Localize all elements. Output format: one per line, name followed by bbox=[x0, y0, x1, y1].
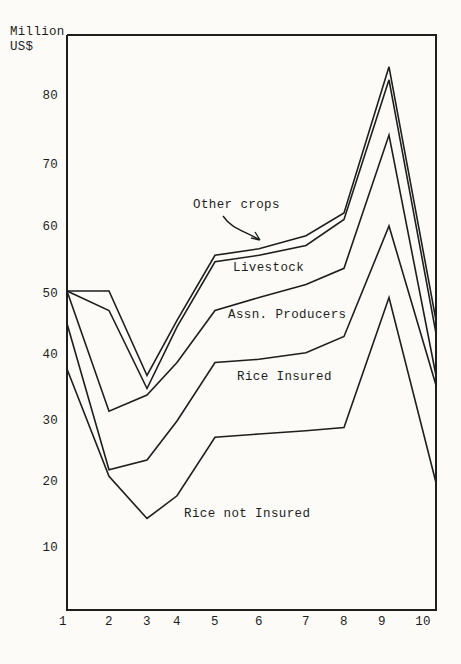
x-tick-label-9: 9 bbox=[370, 614, 394, 630]
y-tick-label-10: 10 bbox=[24, 540, 58, 556]
arrowhead-icon bbox=[223, 216, 260, 240]
x-tick-label-7: 7 bbox=[294, 614, 318, 630]
y-axis-title: Million US$ bbox=[10, 25, 65, 55]
series-line-5 bbox=[67, 298, 436, 519]
y-tick-label-70: 70 bbox=[24, 157, 58, 173]
x-tick-label-8: 8 bbox=[332, 614, 356, 630]
x-tick-label-2: 2 bbox=[97, 614, 121, 630]
y-tick-label-50: 50 bbox=[24, 286, 58, 302]
y-tick-label-40: 40 bbox=[24, 347, 58, 363]
series-line-1 bbox=[67, 67, 436, 376]
band-label-rice-insured: Rice Insured bbox=[237, 370, 332, 385]
band-label-livestock: Livestock bbox=[233, 261, 304, 276]
band-label-other-crops: Other crops bbox=[193, 198, 280, 213]
y-tick-label-30: 30 bbox=[24, 413, 58, 429]
other-crops-arrow-icon bbox=[223, 216, 260, 240]
y-tick-label-80: 80 bbox=[24, 88, 58, 104]
series-lines bbox=[67, 67, 436, 519]
y-tick-label-20: 20 bbox=[24, 474, 58, 490]
chart-canvas bbox=[0, 0, 461, 664]
band-label-rice-not-insured: Rice not Insured bbox=[184, 507, 310, 522]
x-tick-label-6: 6 bbox=[247, 614, 271, 630]
x-tick-label-4: 4 bbox=[165, 614, 189, 630]
series-line-2 bbox=[67, 80, 436, 389]
band-label-assn-producers: Assn. Producers bbox=[228, 308, 347, 323]
y-tick-label-60: 60 bbox=[24, 219, 58, 235]
x-tick-label-5: 5 bbox=[203, 614, 227, 630]
x-tick-label-1: 1 bbox=[51, 614, 75, 630]
x-tick-label-3: 3 bbox=[135, 614, 159, 630]
x-tick-label-10: 10 bbox=[411, 614, 435, 630]
scanned-chart-page: Million US$ 8070605040302010 12345678910… bbox=[0, 0, 461, 664]
